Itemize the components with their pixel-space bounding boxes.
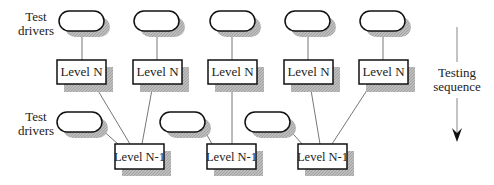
top-test-drivers-label: Test drivers <box>16 10 56 38</box>
level-n-box-2: Level N <box>133 65 182 79</box>
level-n1-box-2: Level N-1 <box>205 150 258 164</box>
testing-sequence-label: Testing sequence <box>425 66 489 94</box>
bottom-test-drivers-label: Test drivers <box>16 110 56 138</box>
level-n-box-4: Level N <box>284 65 333 79</box>
label-line: Test <box>16 110 56 124</box>
label-line: drivers <box>16 24 56 38</box>
level-n-box-5: Level N <box>359 65 408 79</box>
level-n-box-1: Level N <box>57 65 106 79</box>
bottom-test-drivers <box>57 112 296 138</box>
label-line: sequence <box>425 80 489 94</box>
label-line: drivers <box>16 124 56 138</box>
level-n-box-3: Level N <box>208 65 257 79</box>
label-line: Testing <box>425 66 489 80</box>
level-n1-box-3: Level N-1 <box>296 150 349 164</box>
level-n1-box-1: Level N-1 <box>113 150 166 164</box>
label-line: Test <box>16 10 56 24</box>
top-test-drivers <box>59 11 411 37</box>
